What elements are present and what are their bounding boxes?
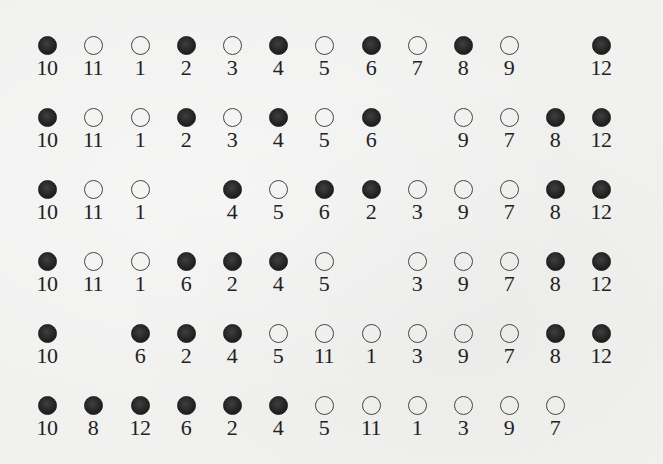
circle-label: 6: [181, 416, 192, 440]
circle-label: 8: [550, 272, 561, 296]
sequence-row-4: 101116245397812: [0, 252, 663, 312]
circle-label: 4: [273, 56, 284, 80]
filled-circle-icon: [454, 36, 473, 55]
circle-label: 3: [227, 56, 238, 80]
open-circle-icon: [500, 396, 519, 415]
open-circle-icon: [362, 396, 381, 415]
sequence-row-2: 101112345697812: [0, 108, 663, 168]
circle-item: 11: [73, 180, 113, 236]
open-circle-icon: [454, 108, 473, 127]
circle-label: 9: [458, 344, 469, 368]
sequence-row-1: 101112345678912: [0, 36, 663, 96]
circle-item: 4: [258, 252, 298, 308]
filled-circle-icon: [38, 180, 57, 199]
circle-item: 2: [166, 108, 206, 164]
circle-label: 10: [37, 200, 58, 224]
filled-circle-icon: [223, 180, 242, 199]
open-circle-icon: [454, 396, 473, 415]
circle-label: 1: [135, 272, 146, 296]
circle-item: 10: [27, 180, 67, 236]
open-circle-icon: [223, 36, 242, 55]
circle-item: 12: [581, 108, 621, 164]
circle-item: 1: [120, 36, 160, 92]
open-circle-icon: [362, 324, 381, 343]
circle-label: 12: [591, 128, 612, 152]
circle-item: 8: [535, 108, 575, 164]
filled-circle-icon: [315, 180, 334, 199]
open-circle-icon: [223, 108, 242, 127]
circle-label: 11: [83, 56, 103, 80]
circle-label: 5: [319, 56, 330, 80]
circle-item: 12: [120, 396, 160, 452]
filled-circle-icon: [38, 324, 57, 343]
circle-label: 9: [504, 56, 515, 80]
circle-label: 2: [366, 200, 377, 224]
open-circle-icon: [131, 180, 150, 199]
circle-label: 4: [273, 272, 284, 296]
circle-label: 1: [412, 416, 423, 440]
open-circle-icon: [315, 36, 334, 55]
circle-label: 4: [227, 200, 238, 224]
filled-circle-icon: [592, 252, 611, 271]
open-circle-icon: [84, 180, 103, 199]
circle-label: 5: [319, 272, 330, 296]
circle-label: 10: [37, 128, 58, 152]
circle-item: 8: [535, 252, 575, 308]
circle-item: 1: [120, 180, 160, 236]
circle-item: 9: [443, 108, 483, 164]
circle-label: 7: [504, 344, 515, 368]
circle-label: 3: [458, 416, 469, 440]
open-circle-icon: [315, 252, 334, 271]
circle-label: 7: [504, 272, 515, 296]
open-circle-icon: [408, 252, 427, 271]
circle-label: 11: [83, 200, 103, 224]
circle-item: 6: [120, 324, 160, 380]
circle-item: 4: [212, 324, 252, 380]
open-circle-icon: [315, 324, 334, 343]
circle-label: 1: [366, 344, 377, 368]
open-circle-icon: [546, 396, 565, 415]
circle-item: 3: [397, 324, 437, 380]
circle-item: 1: [351, 324, 391, 380]
open-circle-icon: [408, 180, 427, 199]
open-circle-icon: [500, 108, 519, 127]
sequence-row-3: 101114562397812: [0, 180, 663, 240]
circle-label: 4: [227, 344, 238, 368]
circle-item: 3: [397, 252, 437, 308]
circle-label: 11: [83, 128, 103, 152]
circle-label: 2: [181, 56, 192, 80]
circle-item: 12: [581, 180, 621, 236]
circle-item: 4: [258, 396, 298, 452]
circle-item: 10: [27, 36, 67, 92]
circle-label: 12: [591, 272, 612, 296]
filled-circle-icon: [362, 180, 381, 199]
filled-circle-icon: [269, 36, 288, 55]
circle-item: 3: [212, 36, 252, 92]
circle-item: 4: [212, 180, 252, 236]
circle-item: 12: [581, 252, 621, 308]
open-circle-icon: [500, 36, 519, 55]
circle-label: 12: [591, 344, 612, 368]
filled-circle-icon: [546, 324, 565, 343]
filled-circle-icon: [269, 252, 288, 271]
filled-circle-icon: [362, 108, 381, 127]
filled-circle-icon: [38, 108, 57, 127]
filled-circle-icon: [177, 108, 196, 127]
open-circle-icon: [500, 252, 519, 271]
circle-item: 8: [535, 180, 575, 236]
circle-item: 12: [581, 324, 621, 380]
circle-label: 4: [273, 416, 284, 440]
filled-circle-icon: [177, 324, 196, 343]
circle-label: 8: [550, 128, 561, 152]
circle-label: 8: [88, 416, 99, 440]
circle-item: 9: [443, 324, 483, 380]
open-circle-icon: [269, 324, 288, 343]
circle-label: 5: [319, 128, 330, 152]
open-circle-icon: [408, 396, 427, 415]
circle-label: 7: [504, 200, 515, 224]
circle-label: 6: [319, 200, 330, 224]
circle-item: 11: [73, 252, 113, 308]
circle-label: 2: [227, 416, 238, 440]
circle-label: 3: [412, 344, 423, 368]
filled-circle-icon: [38, 252, 57, 271]
